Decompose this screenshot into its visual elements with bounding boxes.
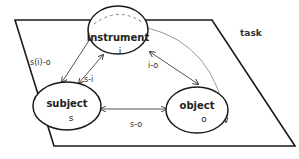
node-object-symbol: o [201,114,207,124]
node-object-name: object [180,100,215,111]
edge-label-s-o: s-o [130,120,142,129]
edge-label-s-i-o: s(i)-o [30,58,51,67]
node-instrument-symbol: i [119,46,122,56]
edge-label-i-o: i-o [148,61,158,70]
node-subject-symbol: s [69,113,74,123]
task-label: task [240,28,263,38]
node-subject: subject s [33,82,101,130]
node-object: object o [166,87,228,133]
node-instrument-name: instrument [87,32,150,43]
edge-label-s-i: s-i [84,75,93,84]
node-subject-name: subject [46,98,87,109]
activity-triangle-diagram: task s(i)-o s-i i-o s-o instrument i sub… [0,0,299,159]
